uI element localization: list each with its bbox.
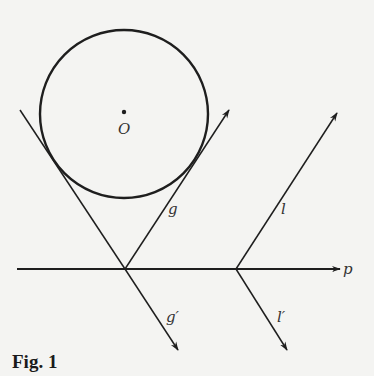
- label-p: p: [343, 260, 353, 278]
- center-label: O: [118, 120, 130, 138]
- label-g: g: [168, 200, 178, 218]
- line-l: [236, 113, 337, 269]
- line-g: [125, 110, 229, 269]
- label-l-prime: l′: [277, 308, 286, 326]
- label-l: l: [281, 200, 286, 218]
- center-point: [122, 110, 126, 114]
- label-g-prime: g′: [166, 308, 180, 326]
- geometry-diagram: O g l p g′ l′ Fig. 1: [0, 0, 374, 376]
- tangent-line-left: [20, 110, 125, 269]
- figure-caption: Fig. 1: [12, 351, 57, 372]
